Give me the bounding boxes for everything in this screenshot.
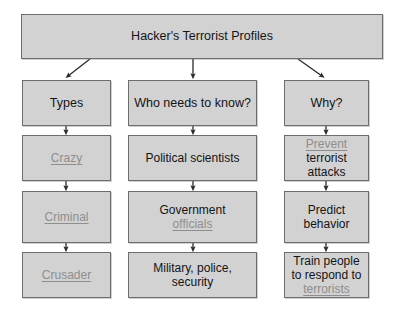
highlight-officials: officials	[173, 217, 213, 231]
node-government-officials-text: Government officials	[129, 203, 256, 231]
node-political-scientists: Political scientists	[128, 135, 257, 181]
highlight-criminal: Criminal	[44, 210, 88, 224]
arrow-title-to-types	[68, 59, 90, 76]
node-types: Types	[22, 80, 111, 126]
node-why-label: Why?	[285, 96, 368, 111]
node-train-people-to-respond: Train people to respond to terrorists	[284, 252, 369, 298]
node-predict-behavior-text: Predict behavior	[285, 203, 368, 231]
node-title-label: Hacker's Terrorist Profiles	[22, 29, 382, 44]
arrow-title-to-why	[298, 59, 322, 76]
node-crusader-text: Crusader	[23, 268, 110, 282]
node-government-word: Government	[159, 203, 225, 217]
node-prevent-terrorist-attacks-text: Prevent terrorist attacks	[285, 137, 368, 179]
highlight-terrorists: terrorists	[303, 282, 350, 296]
node-why: Why?	[284, 80, 369, 126]
node-terrorist-attacks-words: terrorist attacks	[306, 151, 347, 179]
flowchart-canvas: Hacker's Terrorist Profiles Types Crazy …	[0, 0, 395, 316]
node-types-label: Types	[23, 96, 110, 111]
highlight-crazy: Crazy	[51, 151, 82, 165]
node-who-needs-to-know: Who needs to know?	[128, 80, 257, 126]
node-predict-behavior: Predict behavior	[284, 191, 369, 243]
node-title: Hacker's Terrorist Profiles	[21, 14, 383, 59]
node-military-police-security-text: Military, police, security	[129, 261, 256, 289]
node-train-people-words: Train people to respond to	[291, 254, 361, 282]
node-crazy-text: Crazy	[23, 151, 110, 165]
node-criminal: Criminal	[22, 191, 111, 243]
node-train-people-to-respond-text: Train people to respond to terrorists	[285, 254, 368, 296]
node-crusader: Crusader	[22, 252, 111, 298]
node-government-officials: Government officials	[128, 191, 257, 243]
highlight-prevent: Prevent	[306, 137, 347, 151]
highlight-crusader: Crusader	[42, 268, 91, 282]
node-prevent-terrorist-attacks: Prevent terrorist attacks	[284, 135, 369, 181]
node-crazy: Crazy	[22, 135, 111, 181]
node-criminal-text: Criminal	[23, 210, 110, 224]
node-who-needs-to-know-label: Who needs to know?	[129, 96, 256, 111]
node-military-police-security: Military, police, security	[128, 252, 257, 298]
node-political-scientists-text: Political scientists	[129, 151, 256, 165]
